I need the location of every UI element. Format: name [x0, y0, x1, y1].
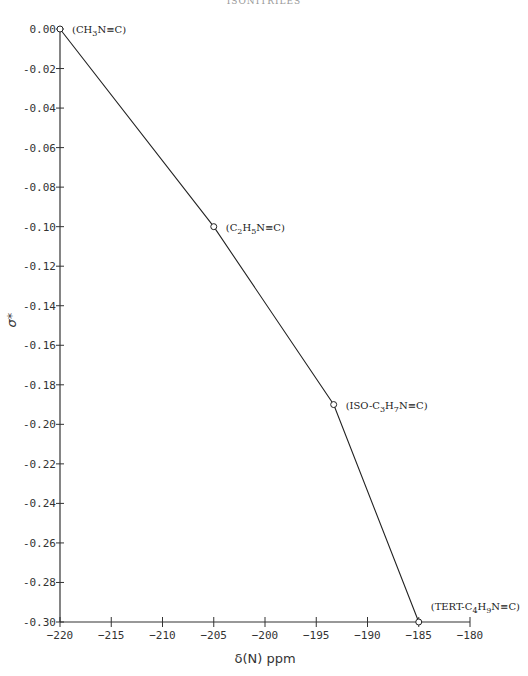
page-header: ISONITRILES [227, 0, 302, 6]
y-tick-label: -0.04 [23, 102, 56, 115]
y-tick-label: -0.24 [23, 497, 56, 510]
y-tick-label: -0.10 [23, 221, 56, 234]
axes: −220−215−210−205−200−195−190−185−1800.00… [23, 23, 483, 642]
y-tick-label: -0.02 [23, 63, 56, 76]
y-axis-title: σ* [4, 312, 19, 327]
y-tick-label: -0.20 [23, 418, 56, 431]
data-point-marker [331, 402, 337, 408]
x-tick-label: −220 [47, 629, 74, 642]
y-tick-label: -0.22 [23, 458, 56, 471]
data-series: (CH3N≡C)(C2H5N≡C)(ISO-C3H7N≡C)(TERT-C4H9… [57, 24, 520, 625]
data-point-label: (CH3N≡C) [72, 24, 126, 38]
data-point-marker [211, 224, 217, 230]
x-tick-label: −215 [98, 629, 125, 642]
data-point-marker [57, 26, 63, 32]
x-tick-label: −210 [149, 629, 176, 642]
x-tick-label: −180 [457, 629, 484, 642]
series-line [60, 29, 419, 622]
y-tick-label: -0.12 [23, 260, 56, 273]
x-tick-label: −205 [201, 629, 228, 642]
y-tick-label: -0.26 [23, 537, 56, 550]
y-tick-label: -0.14 [23, 300, 56, 313]
data-point-label: (TERT-C4H9N≡C) [431, 601, 520, 615]
x-tick-label: −185 [406, 629, 433, 642]
sigma-vs-nitrogen-shift-chart: ISONITRILES −220−215−210−205−200−195−190… [0, 0, 528, 676]
data-point-label: (C2H5N≡C) [226, 222, 285, 236]
y-tick-label: -0.28 [23, 576, 56, 589]
y-tick-label: -0.08 [23, 181, 56, 194]
y-tick-label: -0.16 [23, 339, 56, 352]
x-tick-label: −190 [354, 629, 381, 642]
x-tick-label: −200 [252, 629, 279, 642]
y-tick-label: 0.00 [30, 23, 57, 36]
x-tick-label: −195 [303, 629, 330, 642]
data-point-label: (ISO-C3H7N≡C) [346, 400, 428, 414]
data-point-marker [416, 619, 422, 625]
y-tick-label: -0.18 [23, 379, 56, 392]
y-tick-label: -0.06 [23, 142, 56, 155]
x-axis-title: δ(N) ppm [234, 651, 295, 666]
y-tick-label: -0.30 [23, 616, 56, 629]
